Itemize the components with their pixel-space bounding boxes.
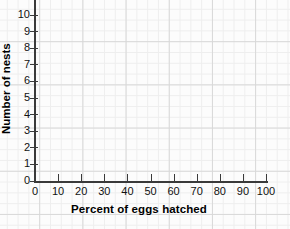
x-tick: [104, 174, 105, 182]
x-axis-title: Percent of eggs hatched: [0, 203, 278, 215]
y-tick-label: 2: [2, 142, 30, 153]
y-tick: [30, 164, 38, 165]
y-tick: [30, 114, 38, 115]
y-tick: [30, 64, 38, 65]
y-tick: [30, 15, 38, 16]
chart-plot-area: 012345678910 0102030405060708090100 Numb…: [0, 0, 290, 229]
x-tick: [127, 174, 128, 182]
y-axis-title: Number of nests: [0, 70, 12, 134]
y-tick-label: 10: [2, 9, 30, 20]
x-tick: [220, 174, 221, 182]
y-tick: [30, 131, 38, 132]
x-tick: [197, 174, 198, 182]
y-axis-line: [34, 0, 36, 183]
x-tick: [58, 174, 59, 182]
x-tick-label: 100: [251, 186, 281, 197]
x-tick: [81, 174, 82, 182]
y-tick: [30, 98, 38, 99]
y-tick-label: 1: [2, 158, 30, 169]
x-tick: [243, 174, 244, 182]
y-tick-label: 0: [2, 175, 30, 186]
y-tick-label: 9: [2, 26, 30, 37]
y-tick: [30, 147, 38, 148]
y-tick: [30, 31, 38, 32]
x-tick: [174, 174, 175, 182]
y-tick: [30, 181, 38, 182]
x-tick: [266, 174, 267, 182]
y-tick: [30, 81, 38, 82]
y-tick: [30, 48, 38, 49]
x-tick: [151, 174, 152, 182]
